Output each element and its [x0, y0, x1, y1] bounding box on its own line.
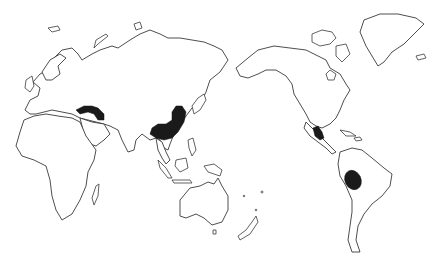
british-isles [25, 76, 34, 92]
severnaya-island [134, 22, 142, 30]
north-america-landmass [236, 46, 350, 128]
new-zealand-island [238, 216, 258, 240]
cuba-island [340, 130, 356, 136]
iceland-island [416, 54, 426, 60]
arctic-archipelago [312, 30, 336, 46]
south-america-landmass [338, 148, 392, 252]
philippines-island [188, 138, 196, 156]
madagascar-island [92, 184, 99, 205]
baffin-island [336, 44, 350, 62]
pacific-island [261, 191, 263, 193]
hispaniola-island [354, 137, 362, 141]
pacific-island [243, 195, 245, 197]
novaya-zemlya-island [94, 34, 108, 48]
svalbard-island [48, 26, 60, 32]
new-guinea-island [204, 164, 222, 176]
greenland-landmass [360, 14, 424, 66]
java-island [172, 180, 192, 183]
tasmania-island [213, 230, 216, 234]
australia-landmass [180, 178, 228, 225]
pacific-island [255, 209, 257, 211]
world-map [0, 0, 441, 266]
borneo-island [175, 158, 188, 172]
